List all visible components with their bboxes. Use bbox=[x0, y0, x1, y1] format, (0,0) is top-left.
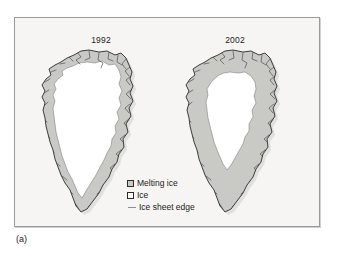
map-title-1992-year: 1992 bbox=[53, 35, 149, 46]
legend: Melting ice Ice Ice sheet edge bbox=[127, 177, 237, 213]
melting-ice-swatch-icon bbox=[127, 180, 134, 187]
legend-label-melting-ice: Melting ice bbox=[137, 178, 178, 188]
legend-item-ice-sheet-edge: Ice sheet edge bbox=[127, 201, 237, 213]
ice-swatch-icon bbox=[127, 192, 134, 199]
legend-label-ice-sheet-edge: Ice sheet edge bbox=[139, 202, 195, 212]
legend-label-ice: Ice bbox=[137, 190, 148, 200]
figure-caption: (a) bbox=[16, 234, 27, 244]
legend-item-ice: Ice bbox=[127, 189, 237, 201]
ice-sheet-edge-line-icon bbox=[128, 207, 136, 208]
legend-item-melting-ice: Melting ice bbox=[127, 177, 237, 189]
figure-root: 1992 Melting Area 2002 Melting Area bbox=[0, 0, 337, 257]
figure-panel: 1992 Melting Area 2002 Melting Area bbox=[14, 17, 320, 227]
map-title-2002-year: 2002 bbox=[187, 35, 283, 46]
